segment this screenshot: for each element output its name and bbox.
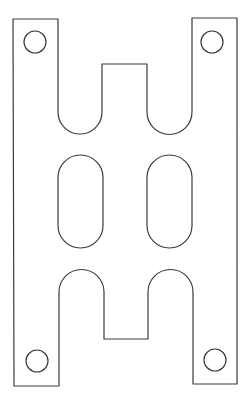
plate-outline <box>13 18 237 386</box>
hole-top-left <box>24 31 46 53</box>
mounting-holes <box>24 31 226 372</box>
plate-drawing <box>0 0 251 401</box>
slot-right <box>147 155 192 248</box>
hole-top-right <box>201 31 223 53</box>
slots <box>58 155 192 248</box>
slot-left <box>58 155 103 248</box>
hole-bottom-right <box>204 349 226 371</box>
hole-bottom-left <box>26 350 48 372</box>
